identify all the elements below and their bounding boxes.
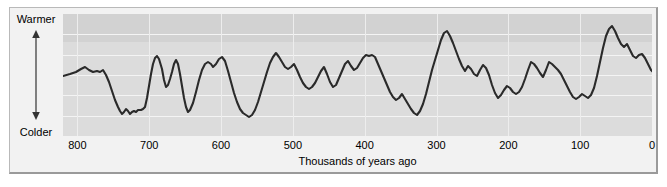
x-axis-title: Thousands of years ago [63,155,652,167]
x-axis-tick-label: 300 [427,139,445,151]
temperature-double-arrow-icon [24,30,48,120]
x-axis-tick-label: 400 [355,139,373,151]
temperature-curve [63,14,652,136]
x-axis-tick-label: 700 [140,139,158,151]
chart-figure: Warmer Colder 8007006005004003002001000 … [0,0,667,187]
y-axis-warmer-label: Warmer [10,13,62,25]
y-axis-colder-label: Colder [10,126,62,138]
x-axis-tick-label: 100 [571,139,589,151]
x-axis-tick-label: 500 [284,139,302,151]
x-axis-tick-label: 0 [649,139,655,151]
x-axis-tick-label: 600 [212,139,230,151]
x-axis-tick-label: 200 [499,139,517,151]
x-axis-tick-label: 800 [68,139,86,151]
y-axis-annotation: Warmer Colder [10,14,62,136]
plot-area [63,14,652,136]
